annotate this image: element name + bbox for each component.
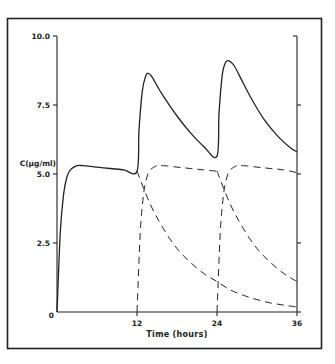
series-dose-dashed-line-1	[137, 171, 297, 307]
y-tick-7-5: 7.5	[37, 101, 50, 110]
chart: 10.0 7.5 5.0 2.5 0 C(µg/ml) 12 24 36 Tim…	[0, 0, 335, 364]
x-tick-24: 24	[212, 319, 222, 328]
x-tick-12: 12	[132, 319, 142, 328]
y-tick-0: 0	[49, 311, 54, 320]
y-tick-10: 10.0	[31, 32, 50, 41]
x-tick-labels: 12 24 36	[132, 319, 302, 328]
y-axis-label: C(µg/ml)	[20, 159, 56, 168]
series-dose-dashed-line-4	[217, 165, 297, 312]
x-axis-label: Time (hours)	[146, 330, 207, 339]
chart-frame	[8, 19, 322, 349]
series-dose-dashed-line-3	[217, 171, 297, 281]
x-tick-36: 36	[292, 319, 302, 328]
series-layer	[57, 60, 297, 312]
axes	[53, 36, 301, 316]
series-dose-dashed-line-2	[137, 165, 217, 312]
series-total-line	[57, 60, 297, 312]
y-tick-2-5: 2.5	[37, 239, 50, 248]
y-tick-labels: 10.0 7.5 5.0 2.5 0	[31, 32, 54, 320]
y-tick-5: 5.0	[37, 170, 50, 179]
